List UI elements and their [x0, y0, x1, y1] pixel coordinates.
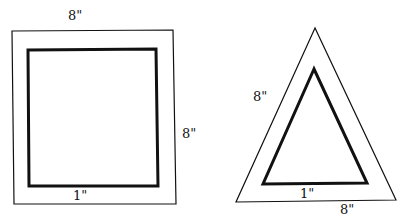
square-side-dimension-label: 8"	[182, 127, 196, 140]
triangle-outer-frame	[236, 28, 396, 202]
square-border-width-label: 1"	[73, 189, 87, 202]
square-outer-frame	[12, 30, 176, 204]
square-top-dimension-label: 8"	[68, 9, 82, 22]
triangle-base-dimension-label: 8"	[340, 203, 354, 216]
square-inner-opening	[28, 49, 158, 186]
triangle-side-dimension-label: 8"	[253, 90, 267, 103]
diagram-frames: 8" 8" 1" 8" 1" 8"	[0, 0, 403, 220]
shapes	[0, 0, 403, 220]
triangle-inner-opening	[263, 69, 367, 184]
triangle-border-width-label: 1"	[300, 187, 314, 200]
